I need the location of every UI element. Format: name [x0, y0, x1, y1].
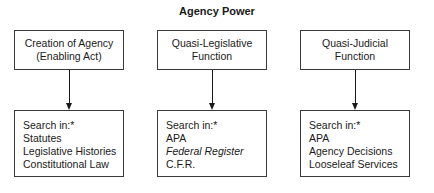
node-quasi-legislative: Quasi-Legislative Function — [157, 30, 267, 70]
arrow-line — [69, 70, 70, 104]
source-item: Constitutional Law — [23, 158, 123, 171]
node-sources-creation: Search in:* Statutes Legislative Histori… — [14, 110, 124, 177]
source-item: C.F.R. — [166, 158, 266, 171]
node-label: Quasi-Judicial — [322, 37, 388, 50]
source-item: Federal Register — [166, 145, 266, 158]
search-label: Search in:* — [166, 119, 266, 132]
node-label: (Enabling Act) — [36, 50, 101, 63]
node-label: Quasi-Legislative — [172, 37, 253, 50]
diagram-title: Agency Power — [0, 5, 434, 17]
source-item: APA — [309, 132, 409, 145]
node-label: Creation of Agency — [25, 37, 114, 50]
arrow-line — [355, 70, 356, 104]
source-item: Agency Decisions — [309, 145, 409, 158]
source-item: Legislative Histories — [23, 145, 123, 158]
node-sources-legislative: Search in:* APA Federal Register C.F.R. — [157, 110, 267, 177]
arrow-head-icon — [66, 103, 72, 110]
search-label: Search in:* — [23, 119, 123, 132]
node-creation-of-agency: Creation of Agency (Enabling Act) — [14, 30, 124, 70]
source-item: Statutes — [23, 132, 123, 145]
node-quasi-judicial: Quasi-Judicial Function — [300, 30, 410, 70]
node-sources-judicial: Search in:* APA Agency Decisions Loosele… — [300, 110, 410, 177]
arrow-line — [212, 70, 213, 104]
search-label: Search in:* — [309, 119, 409, 132]
source-item: APA — [166, 132, 266, 145]
source-item: Looseleaf Services — [309, 158, 409, 171]
arrow-head-icon — [209, 103, 215, 110]
arrow-head-icon — [352, 103, 358, 110]
node-label: Function — [192, 50, 232, 63]
node-label: Function — [335, 50, 375, 63]
